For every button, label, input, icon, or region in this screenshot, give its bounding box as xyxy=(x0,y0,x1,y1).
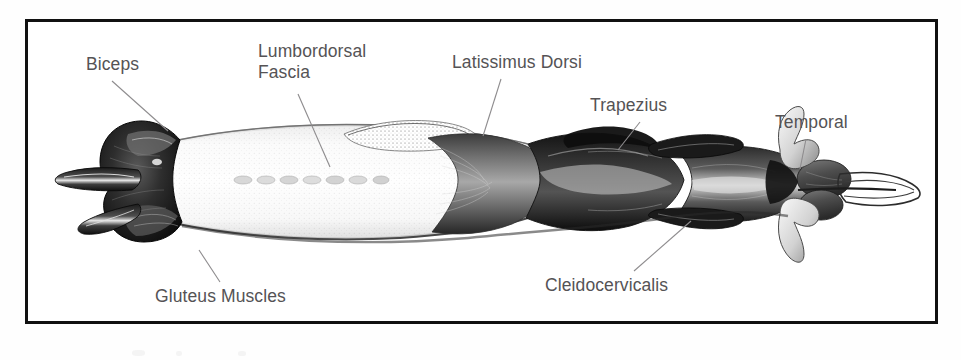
scan-speckle xyxy=(176,351,182,356)
hind-leg-upper xyxy=(55,168,141,191)
label-biceps: Biceps xyxy=(86,54,139,74)
label-latissimus-dorsi: Latissimus Dorsi xyxy=(452,52,582,72)
scan-speckle xyxy=(132,350,145,356)
label-cleidocervicalis: Cleidocervicalis xyxy=(545,275,668,295)
label-trapezius: Trapezius xyxy=(590,95,667,115)
label-temporal: Temporal xyxy=(775,112,848,132)
label-gluteus-muscles: Gluteus Muscles xyxy=(155,286,286,306)
scanned-page: Biceps LumbordorsalFascia Latissimus Dor… xyxy=(0,0,961,360)
label-lumbordorsal-fascia-line-1: Lumbordorsal xyxy=(258,41,366,61)
scan-speckle xyxy=(238,351,246,356)
label-lumbordorsal-fascia-line-2: Fascia xyxy=(258,62,310,82)
label-lumbordorsal-fascia: LumbordorsalFascia xyxy=(258,41,366,83)
ear-lower xyxy=(778,198,819,262)
